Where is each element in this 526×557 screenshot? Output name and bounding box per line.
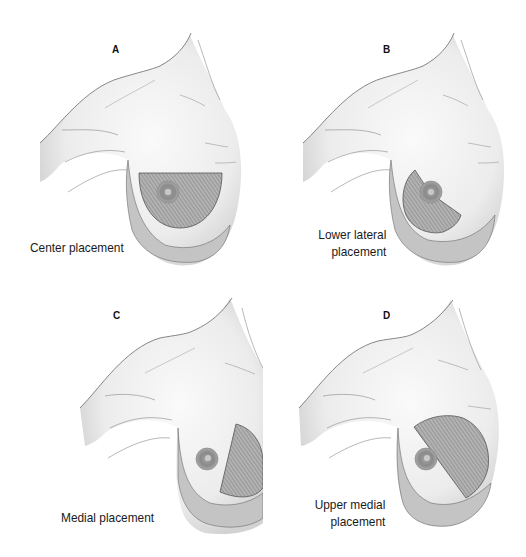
panel-letter: B bbox=[383, 44, 390, 55]
caption-line: Center placement bbox=[30, 239, 124, 256]
breast-illustration-upper-medial bbox=[263, 278, 526, 557]
caption-line: Lower lateral bbox=[318, 226, 386, 243]
panel-c: C Medial placement bbox=[0, 278, 263, 556]
caption-line: placement bbox=[318, 243, 386, 260]
breast-illustration-center bbox=[0, 0, 263, 278]
caption-line: placement bbox=[314, 513, 385, 530]
panel-letter: D bbox=[383, 310, 390, 321]
panel-caption: Center placement bbox=[30, 239, 124, 256]
panel-a: A Center placement bbox=[0, 0, 263, 278]
breast-illustration-lower-lateral bbox=[263, 0, 526, 278]
panel-letter: C bbox=[113, 310, 120, 321]
panel-caption: Lower lateral placement bbox=[318, 226, 386, 260]
panel-caption: Upper medial placement bbox=[314, 496, 385, 530]
panel-caption: Medial placement bbox=[61, 509, 154, 526]
caption-line: Medial placement bbox=[61, 509, 154, 526]
caption-line: Upper medial bbox=[314, 496, 385, 513]
panel-d: D Upper medial placement bbox=[263, 278, 526, 556]
panel-b: B Lower lateral placement bbox=[263, 0, 526, 278]
panel-letter: A bbox=[112, 44, 119, 55]
